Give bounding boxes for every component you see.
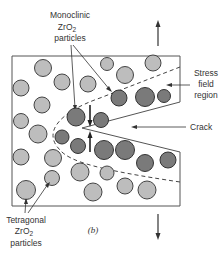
crack-label: Crack — [190, 122, 213, 132]
stress-label-line1: Stress — [194, 68, 218, 78]
stress-label-line3: region — [194, 90, 218, 100]
figure-caption: (b) — [88, 225, 99, 235]
monoclinic-label-line1: Monoclinic — [50, 10, 91, 20]
tetragonal-label-line3: particles — [10, 238, 42, 248]
stress-label-line2: field — [198, 79, 214, 89]
tetragonal-label-line1: Tetragonal — [6, 215, 46, 225]
tensile-arrow-down-icon — [156, 214, 161, 240]
transformation-toughening-diagram: Monoclinic ZrO2 particles — [0, 0, 224, 264]
tetragonal-label-line2: ZrO2 — [15, 226, 34, 237]
monoclinic-label-line3: particles — [54, 33, 86, 43]
monoclinic-label-line2: ZrO2 — [58, 22, 77, 33]
tensile-arrow-up-icon — [156, 20, 161, 46]
crack-pointer-arrow-icon — [131, 125, 186, 129]
